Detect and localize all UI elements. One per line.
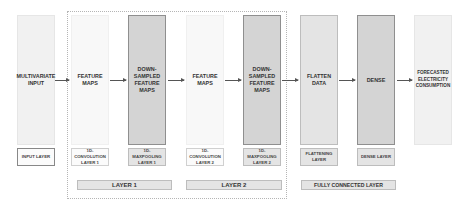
node-label: FORECASTED ELECTRICITY CONSUMPTION [415,70,451,90]
arrow-fm1-to-ds1 [110,80,126,81]
arrow-fm2-to-ds2 [225,80,241,81]
arrow-ds1-to-fm2 [168,80,184,81]
flattening-layer-label: FLATTENING LAYER [300,148,338,166]
arrow-dense-to-output [397,80,412,81]
group-label: LAYER 2 [222,182,247,188]
feature-maps-2-node: FEATURE MAPS [186,15,224,145]
label-text: 1D-CONVOLUTION LAYER 2 [187,148,223,166]
downsampled-1-node: DOWN-SAMPLED FEATURE MAPS [128,15,166,145]
layer-2-bar: LAYER 2 [186,180,282,190]
flatten-data-node: FLATTEN DATA [300,15,338,145]
maxpool1-layer-label: 1D-MAXPOOLING LAYER 1 [128,148,166,166]
label-text: 1D-CONVOLUTION LAYER 1 [72,148,108,166]
label-text: 1D-MAXPOOLING LAYER 2 [244,148,280,166]
group-label: LAYER 1 [112,182,137,188]
arrow-flatten-to-dense [339,80,355,81]
node-label: FLATTEN DATA [301,73,337,87]
group-label: FULLY CONNECTED LAYER [314,182,383,188]
dense-node: DENSE [357,15,395,145]
fully-connected-layer-bar: FULLY CONNECTED LAYER [301,180,396,190]
maxpool2-layer-label: 1D-MAXPOOLING LAYER 2 [243,148,281,166]
dense-layer-label: DENSE LAYER [357,148,395,166]
node-label: DENSE [367,77,386,84]
node-label: MULTIVARIATE INPUT [17,73,56,87]
label-text: 1D-MAXPOOLING LAYER 1 [129,148,165,166]
forecast-output-node: FORECASTED ELECTRICITY CONSUMPTION [414,15,452,145]
node-label: FEATURE MAPS [187,73,223,87]
downsampled-2-node: DOWN-SAMPLED FEATURE MAPS [243,15,281,145]
layer-1-bar: LAYER 1 [77,180,172,190]
node-label: FEATURE MAPS [72,73,108,87]
feature-maps-1-node: FEATURE MAPS [71,15,109,145]
label-text: INPUT LAYER [22,154,50,160]
conv1-layer-label: 1D-CONVOLUTION LAYER 1 [71,148,109,166]
multivariate-input-node: MULTIVARIATE INPUT [17,15,55,145]
conv2-layer-label: 1D-CONVOLUTION LAYER 2 [186,148,224,166]
node-label: DOWN-SAMPLED FEATURE MAPS [129,66,165,94]
arrow-input-to-fm1 [55,80,69,81]
input-layer-label: INPUT LAYER [17,148,55,166]
arrow-ds2-to-flatten [282,80,298,81]
node-label: DOWN-SAMPLED FEATURE MAPS [244,66,280,94]
label-text: FLATTENING LAYER [301,151,337,163]
label-text: DENSE LAYER [361,154,391,160]
